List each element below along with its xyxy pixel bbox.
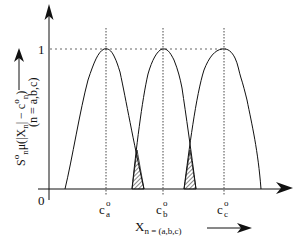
- center-label-c: coc: [217, 203, 223, 216]
- y-axis: [45, 4, 54, 200]
- curve-c: [184, 49, 261, 189]
- center-label-b: cob: [156, 203, 162, 216]
- center-guides: [106, 28, 224, 196]
- curve-a: [65, 49, 144, 189]
- x-axis: [38, 182, 293, 194]
- y-label-arrow-icon: [12, 48, 26, 90]
- origin-label: 0: [38, 194, 45, 207]
- overlap-region-bc: [184, 150, 196, 189]
- center-label-a: coa: [99, 203, 105, 216]
- x-label-arrow-icon: [207, 222, 253, 234]
- x-axis-label: Xn = (a,b,c): [135, 220, 181, 236]
- y-tick-1: 1: [38, 43, 45, 56]
- x-axis-arrow-icon: [276, 182, 293, 194]
